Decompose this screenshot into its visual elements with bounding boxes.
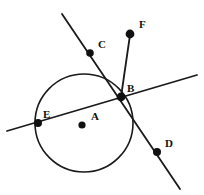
point-a-dot bbox=[78, 121, 85, 128]
point-b-label: B bbox=[127, 82, 135, 94]
point-c-dot bbox=[86, 49, 94, 57]
point-d-dot bbox=[153, 148, 161, 156]
point-c-label: C bbox=[98, 38, 106, 50]
secant-line-C-B-D bbox=[62, 14, 180, 189]
point-d-label: D bbox=[165, 137, 173, 149]
point-e-label: E bbox=[43, 108, 50, 120]
point-a-label: A bbox=[91, 110, 99, 122]
geometry-canvas: ABCDEF bbox=[0, 0, 204, 195]
point-f-dot bbox=[126, 30, 135, 39]
point-f-label: F bbox=[139, 18, 146, 30]
point-e-dot bbox=[34, 119, 42, 127]
point-b-dot bbox=[117, 93, 126, 102]
geometry-figure: ABCDEF bbox=[0, 0, 204, 195]
